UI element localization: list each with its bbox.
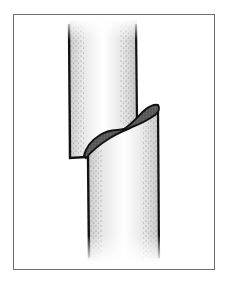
stem-illustration [0, 0, 229, 284]
